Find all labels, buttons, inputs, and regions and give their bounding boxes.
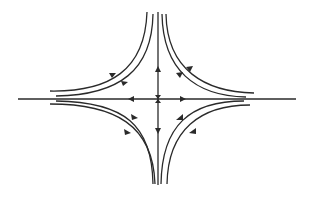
- trajectory-lower-left-inner: [56, 101, 153, 184]
- arrow-lower-left-1: [131, 114, 138, 120]
- arrow-lower-right-2: [189, 128, 196, 134]
- arrow-lower-left-2: [124, 129, 131, 135]
- arrow-down-icon: [155, 128, 161, 134]
- arrow-right-icon: [180, 96, 186, 102]
- arrow-upper-right-2: [176, 72, 183, 78]
- trajectory-upper-right-inner: [162, 14, 246, 97]
- phase-portrait-diagram: [0, 0, 309, 199]
- arrow-upper-left-2: [121, 81, 128, 86]
- trajectory-lower-right-outer: [167, 105, 250, 184]
- trajectory-upper-right-outer: [166, 14, 254, 93]
- trajectory-upper-left-inner: [56, 14, 153, 96]
- phase-portrait-svg: [0, 0, 309, 199]
- trajectory-lower-left-outer: [50, 104, 155, 184]
- arrow-up-icon: [155, 66, 161, 72]
- arrow-lower-right-1: [176, 114, 183, 120]
- trajectory-lower-right-inner: [161, 101, 244, 184]
- arrow-left-icon: [128, 96, 134, 102]
- trajectory-upper-left-outer: [50, 12, 147, 91]
